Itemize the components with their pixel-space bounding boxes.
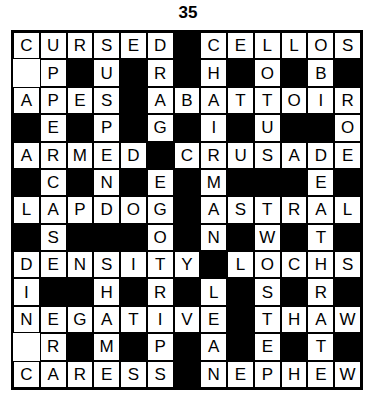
grid-cell-letter[interactable]: W [334,361,361,388]
grid-cell-letter[interactable]: A [40,361,67,388]
grid-cell-letter[interactable]: N [93,169,120,196]
grid-cell-letter[interactable]: S [93,87,120,114]
grid-cell-letter[interactable]: A [13,87,40,114]
grid-cell-letter[interactable]: V [174,306,201,333]
grid-cell-letter[interactable]: N [13,306,40,333]
grid-cell-letter[interactable]: P [40,59,67,86]
grid-cell-letter[interactable]: A [281,142,308,169]
grid-cell-letter[interactable]: A [13,142,40,169]
grid-cell-letter[interactable]: D [13,251,40,278]
grid-cell-letter[interactable]: E [334,142,361,169]
grid-cell-letter[interactable]: R [307,278,334,305]
grid-cell-letter[interactable]: S [40,224,67,251]
grid-cell-letter[interactable]: O [334,114,361,141]
grid-cell-letter[interactable]: O [281,87,308,114]
grid-cell-letter[interactable]: H [200,59,227,86]
grid-cell-letter[interactable]: R [200,142,227,169]
grid-cell-letter[interactable]: W [254,224,281,251]
grid-cell-letter[interactable]: H [307,251,334,278]
grid-cell-letter[interactable]: O [307,32,334,59]
grid-cell-letter[interactable]: E [227,361,254,388]
grid-cell-letter[interactable]: H [281,361,308,388]
grid-cell-letter[interactable]: I [307,87,334,114]
grid-cell-letter[interactable]: U [227,142,254,169]
grid-cell-letter[interactable]: N [67,251,94,278]
grid-cell-letter[interactable]: L [200,278,227,305]
grid-cell-letter[interactable]: L [13,196,40,223]
grid-cell-letter[interactable]: A [40,196,67,223]
grid-cell-letter[interactable]: E [40,251,67,278]
grid-cell-letter[interactable]: O [147,224,174,251]
grid-cell-letter[interactable]: D [120,142,147,169]
grid-cell-letter[interactable]: T [307,333,334,360]
grid-cell-letter[interactable]: C [13,32,40,59]
grid-cell-letter[interactable]: E [93,361,120,388]
grid-cell-letter[interactable]: A [200,87,227,114]
grid-cell-letter[interactable]: E [200,306,227,333]
grid-cell-letter[interactable]: P [93,114,120,141]
grid-cell-letter[interactable]: D [307,142,334,169]
grid-cell-letter[interactable]: S [334,251,361,278]
grid-cell-letter[interactable]: E [93,142,120,169]
grid-cell-letter[interactable]: B [307,59,334,86]
grid-cell-letter[interactable]: U [254,114,281,141]
grid-cell-letter[interactable]: P [254,361,281,388]
grid-cell-letter[interactable]: R [40,333,67,360]
grid-cell-letter[interactable]: G [67,306,94,333]
grid-cell-letter[interactable]: I [13,278,40,305]
grid-cell-letter[interactable]: R [281,196,308,223]
grid-cell-letter[interactable]: H [93,278,120,305]
grid-cell-letter[interactable]: R [147,59,174,86]
grid-cell-letter[interactable]: R [334,87,361,114]
grid-cell-letter[interactable]: G [147,196,174,223]
grid-cell-letter[interactable]: O [120,196,147,223]
grid-cell-letter[interactable]: O [254,59,281,86]
grid-cell-letter[interactable]: T [120,306,147,333]
grid-cell-letter[interactable]: T [254,306,281,333]
grid-cell-letter[interactable]: E [67,87,94,114]
grid-cell-letter[interactable]: S [93,32,120,59]
grid-cell-letter[interactable]: N [200,361,227,388]
grid-cell-letter[interactable]: U [40,32,67,59]
grid-cell-letter[interactable]: P [67,196,94,223]
grid-cell-letter[interactable]: T [227,87,254,114]
grid-cell-letter[interactable]: O [254,251,281,278]
grid-cell-letter[interactable]: T [307,224,334,251]
grid-cell-letter[interactable]: S [227,196,254,223]
grid-cell-letter[interactable]: I [200,114,227,141]
grid-cell-letter[interactable]: G [147,114,174,141]
grid-cell-letter[interactable]: A [307,306,334,333]
grid-cell-letter[interactable]: P [40,87,67,114]
grid-cell-letter[interactable]: Y [174,251,201,278]
grid-cell-letter[interactable]: P [147,333,174,360]
grid-cell-letter[interactable]: I [147,306,174,333]
grid-cell-letter[interactable]: T [254,87,281,114]
grid-cell-letter[interactable]: C [281,251,308,278]
grid-cell-letter[interactable]: L [254,32,281,59]
grid-cell-letter[interactable]: M [200,169,227,196]
grid-cell-letter[interactable]: C [40,169,67,196]
grid-cell-letter[interactable]: E [147,169,174,196]
grid-cell-letter[interactable]: S [93,251,120,278]
grid-cell-letter[interactable]: S [254,278,281,305]
grid-cell-letter[interactable]: S [334,32,361,59]
grid-cell-letter[interactable]: W [334,306,361,333]
grid-cell-letter[interactable]: A [307,196,334,223]
grid-cell-letter[interactable]: C [200,32,227,59]
grid-cell-letter[interactable]: T [147,251,174,278]
grid-cell-letter[interactable]: R [67,361,94,388]
grid-cell-letter[interactable]: L [227,251,254,278]
grid-cell-letter[interactable]: S [254,142,281,169]
grid-cell-letter[interactable]: H [281,306,308,333]
grid-cell-letter[interactable]: E [254,333,281,360]
grid-cell-letter[interactable]: R [147,278,174,305]
grid-cell-letter[interactable]: N [200,224,227,251]
grid-cell-letter[interactable]: M [67,142,94,169]
grid-cell-letter[interactable]: E [227,32,254,59]
grid-cell-letter[interactable]: C [13,361,40,388]
grid-cell-letter[interactable]: L [334,196,361,223]
grid-cell-letter[interactable]: A [147,87,174,114]
grid-cell-letter[interactable]: S [147,361,174,388]
grid-cell-letter[interactable]: D [147,32,174,59]
grid-cell-letter[interactable]: R [67,32,94,59]
